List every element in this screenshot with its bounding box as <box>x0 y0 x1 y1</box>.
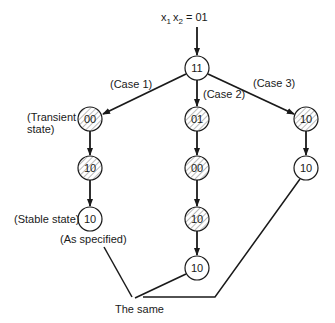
node-col2-10-stable: 10 <box>185 256 209 280</box>
connector-as-specified <box>104 247 132 297</box>
node-col1-10-stable: 10 <box>78 207 102 231</box>
as-specified-label: (As specified) <box>60 233 127 245</box>
connector-col2 <box>135 274 186 298</box>
node-col3-10-transient: 10 <box>294 107 318 131</box>
svg-text:10: 10 <box>300 162 312 174</box>
case3-label: (Case 3) <box>253 77 295 89</box>
node-col2-10-transient: 10 <box>185 207 209 231</box>
connector-col3 <box>143 179 300 297</box>
svg-text:11: 11 <box>191 62 202 74</box>
transient-state-label-line2: state) <box>27 123 55 135</box>
node-col2-00: 00 <box>185 156 209 180</box>
svg-text:10: 10 <box>191 262 203 274</box>
svg-text:10: 10 <box>300 113 312 125</box>
case1-label: (Case 1) <box>110 78 152 90</box>
node-col1-00: 00 <box>78 107 102 131</box>
stable-state-label: (Stable state) <box>14 213 79 225</box>
svg-text:00: 00 <box>191 162 203 174</box>
svg-text:00: 00 <box>84 113 96 125</box>
svg-text:10: 10 <box>191 213 203 225</box>
svg-text:01: 01 <box>191 113 203 125</box>
case2-label: (Case 2) <box>203 88 245 100</box>
node-root-11: 11 <box>185 56 209 80</box>
state-transition-diagram: x1x2 = 01 11 (Case 1) (Case 2) (Case 3) … <box>0 0 335 323</box>
svg-text:10: 10 <box>84 162 96 174</box>
the-same-label: The same <box>115 303 164 315</box>
input-condition-label: x1x2 = 01 <box>161 11 208 26</box>
node-col3-10-stable: 10 <box>294 156 318 180</box>
svg-text:x1x2 = 01: x1x2 = 01 <box>161 11 208 26</box>
node-col1-10-transient: 10 <box>78 156 102 180</box>
transient-state-label-line1: (Transient <box>27 111 76 123</box>
node-col2-01: 01 <box>185 107 209 131</box>
svg-text:10: 10 <box>84 213 96 225</box>
